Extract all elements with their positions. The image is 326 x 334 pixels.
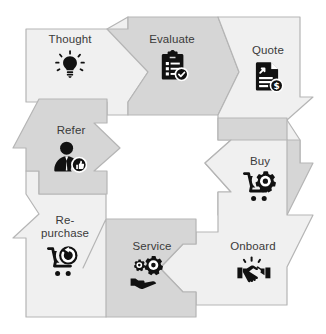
- cycle-arrows-svg: [0, 0, 326, 334]
- cycle-diagram: Thought Evaluate: [0, 0, 326, 334]
